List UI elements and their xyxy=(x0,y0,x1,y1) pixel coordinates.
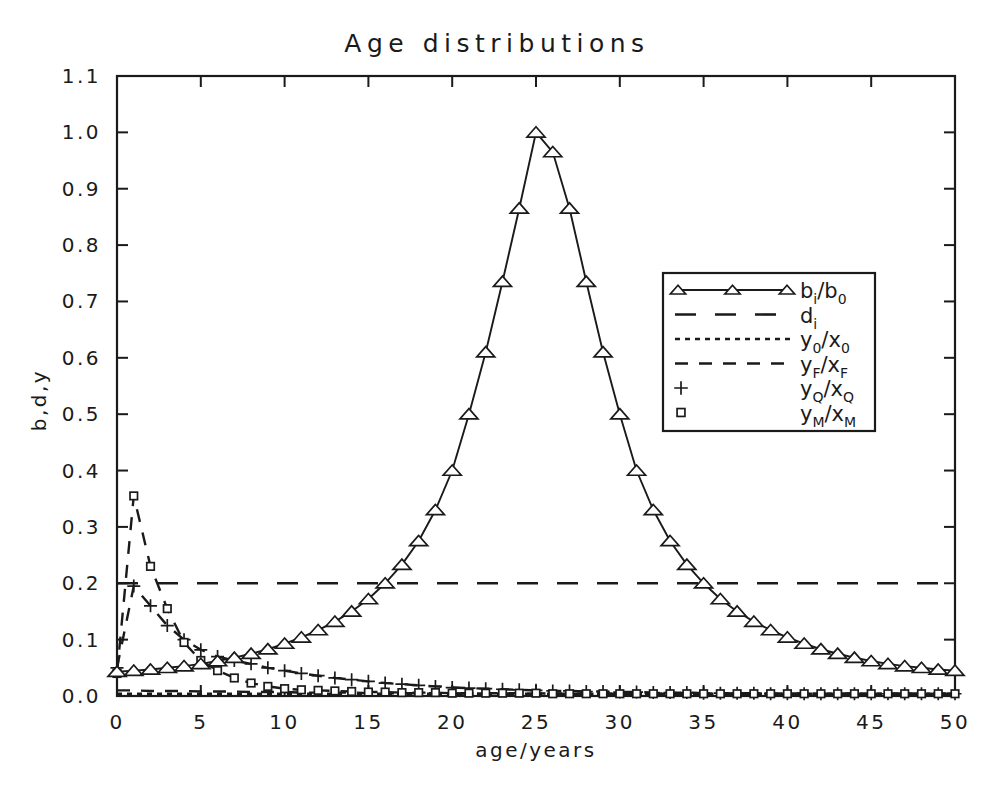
square-marker xyxy=(717,690,725,698)
x-tick-label: 45 xyxy=(856,710,886,734)
y-tick-label: 0.9 xyxy=(62,177,101,201)
y-tick-label: 0.2 xyxy=(62,571,101,595)
square-marker xyxy=(415,689,423,697)
y-tick-label: 0.8 xyxy=(62,233,101,257)
y-tick-label: 0.5 xyxy=(62,402,101,426)
square-marker xyxy=(583,690,591,698)
square-marker xyxy=(650,690,658,698)
chart-legend: bi/b0diy0/x0yF/xFyQ/xQyM/xM xyxy=(663,273,875,431)
square-marker xyxy=(314,687,322,695)
square-marker xyxy=(147,563,155,571)
square-marker xyxy=(750,690,758,698)
y-tick-label: 1.0 xyxy=(62,120,101,144)
square-marker xyxy=(515,689,523,697)
x-axis-label: age/years xyxy=(475,738,597,762)
chart-title: Age distributions xyxy=(344,29,649,58)
square-marker xyxy=(677,409,685,417)
square-marker xyxy=(566,690,574,698)
y-tick-label: 0.6 xyxy=(62,346,101,370)
square-marker xyxy=(164,605,172,613)
square-marker xyxy=(448,689,456,697)
square-marker xyxy=(683,690,691,698)
x-tick-label: 25 xyxy=(521,710,551,734)
square-marker xyxy=(381,688,389,696)
square-marker xyxy=(180,639,188,647)
square-marker xyxy=(800,690,808,698)
square-marker xyxy=(934,690,942,698)
y-tick-label: 0.7 xyxy=(62,289,101,313)
square-marker xyxy=(214,667,222,675)
square-marker xyxy=(130,492,138,500)
square-marker xyxy=(499,689,507,697)
square-marker xyxy=(532,689,540,697)
square-marker xyxy=(851,690,859,698)
square-marker xyxy=(784,690,792,698)
square-marker xyxy=(951,690,959,698)
x-tick-label: 50 xyxy=(940,710,970,734)
square-marker xyxy=(884,690,892,698)
x-tick-label: 30 xyxy=(605,710,635,734)
square-marker xyxy=(867,690,875,698)
square-marker xyxy=(616,690,624,698)
square-marker xyxy=(633,690,641,698)
x-tick-label: 5 xyxy=(193,710,208,734)
y-tick-label: 0.3 xyxy=(62,515,101,539)
x-tick-label: 15 xyxy=(353,710,383,734)
square-marker xyxy=(298,686,306,694)
x-tick-label: 20 xyxy=(437,710,467,734)
square-marker xyxy=(817,690,825,698)
square-marker xyxy=(465,689,473,697)
square-marker xyxy=(834,690,842,698)
square-marker xyxy=(482,689,490,697)
y-tick-label: 0.4 xyxy=(62,459,101,483)
x-tick-label: 35 xyxy=(688,710,718,734)
x-tick-label: 10 xyxy=(269,710,299,734)
square-marker xyxy=(549,690,557,698)
y-tick-label: 0.0 xyxy=(62,684,101,708)
square-marker xyxy=(264,683,272,691)
square-marker xyxy=(281,685,289,693)
y-axis-label: b,d,y xyxy=(27,369,51,431)
chart-figure: Age distributions 0.00.10.20.30.40.50.60… xyxy=(0,0,994,798)
square-marker xyxy=(331,687,339,695)
square-marker xyxy=(348,688,356,696)
square-marker xyxy=(666,690,674,698)
x-tick-label: 40 xyxy=(772,710,802,734)
square-marker xyxy=(599,690,607,698)
square-marker xyxy=(432,689,440,697)
square-marker xyxy=(247,679,255,687)
square-marker xyxy=(700,690,708,698)
y-tick-label: 1.1 xyxy=(62,64,101,88)
square-marker xyxy=(901,690,909,698)
square-marker xyxy=(733,690,741,698)
y-tick-label: 0.1 xyxy=(62,628,101,652)
square-marker xyxy=(231,674,239,682)
square-marker xyxy=(918,690,926,698)
age-distributions-chart: Age distributions 0.00.10.20.30.40.50.60… xyxy=(0,0,994,798)
square-marker xyxy=(398,689,406,697)
x-tick-label: 0 xyxy=(109,710,124,734)
square-marker xyxy=(767,690,775,698)
square-marker xyxy=(365,688,373,696)
